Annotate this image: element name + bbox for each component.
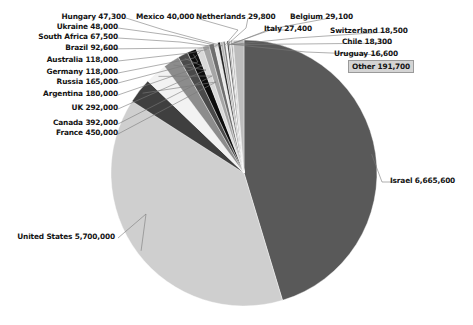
- pie-label-germany: Germany 118,000: [8, 67, 118, 76]
- pie-label-uruguay: Uruguay 16,600: [334, 49, 398, 58]
- pie-slices: [111, 40, 377, 306]
- pie-label-ukraine: Ukraine 48,000: [8, 22, 118, 31]
- pie-label-uk: UK 292,000: [8, 103, 118, 112]
- pie-label-switzerland: Switzerland 18,500: [330, 26, 408, 35]
- pie-label-argentina: Argentina 180,000: [8, 89, 118, 98]
- pie-label-brazil: Brazil 92,600: [8, 43, 118, 52]
- pie-label-russia: Russia 165,000: [8, 77, 118, 86]
- pie-label-belgium: Belgium 29,100: [290, 12, 353, 21]
- pie-label-united-states: United States 5,700,000: [2, 232, 115, 241]
- pie-label-italy: Italy 27,400: [264, 24, 312, 33]
- leader-line: [118, 38, 217, 47]
- pie-label-other: Other 191,700: [348, 60, 414, 73]
- pie-label-chile: Chile 18,300: [342, 37, 392, 46]
- pie-label-south-africa: South Africa 67,500: [8, 32, 118, 41]
- pie-label-mexico: Mexico 40,000: [136, 12, 194, 21]
- pie-label-netherlands: Netherlands 29,800: [196, 12, 276, 21]
- pie-label-canada: Canada 392,000: [8, 118, 118, 127]
- pie-label-france: France 450,000: [8, 128, 118, 137]
- pie-label-israel: Israel 6,665,600: [390, 176, 455, 185]
- pie-chart: Hungary 47,300 Ukraine 48,000 South Afri…: [0, 0, 473, 325]
- pie-label-hungary: Hungary 47,300: [8, 12, 126, 21]
- pie-label-australia: Australia 118,000: [8, 55, 118, 64]
- leader-line: [118, 28, 220, 46]
